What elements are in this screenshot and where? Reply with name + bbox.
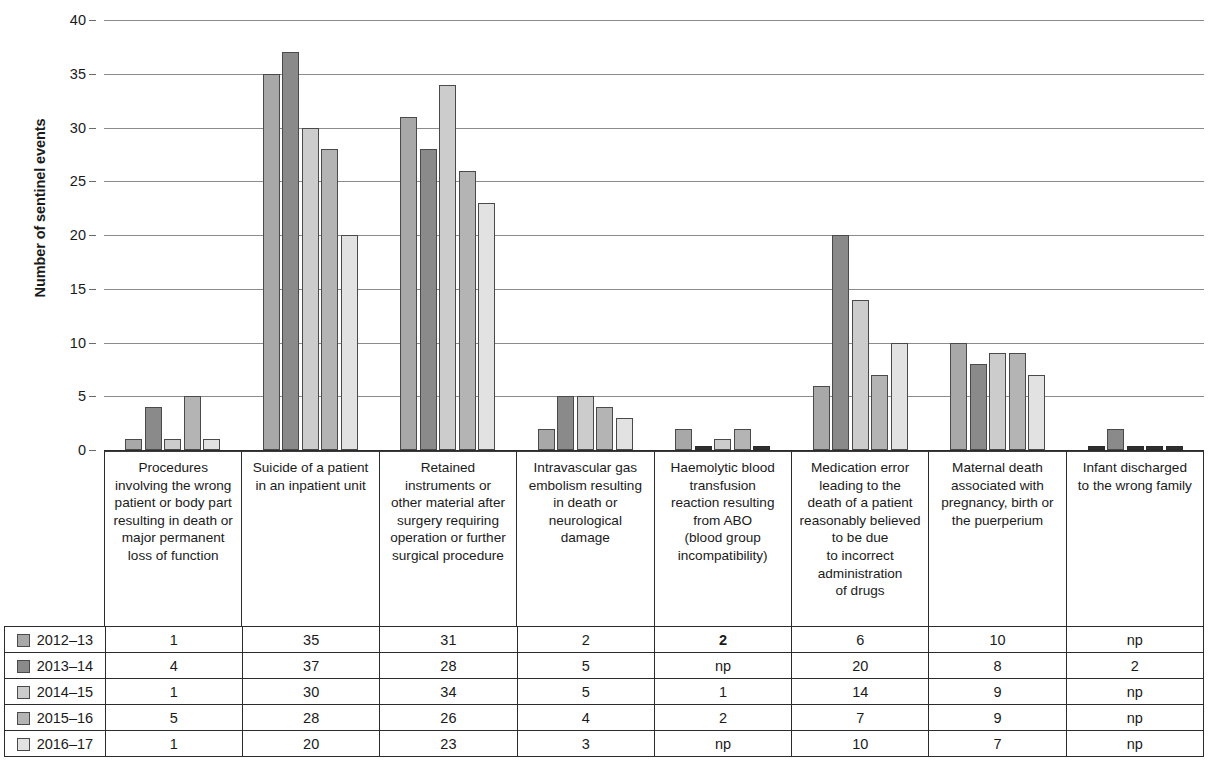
table-cell: 4 xyxy=(105,653,242,679)
legend-item[interactable]: 2015–16 xyxy=(5,705,106,731)
legend-swatch-icon xyxy=(17,660,30,673)
table-cell: 23 xyxy=(380,731,517,757)
y-axis-tick-mark xyxy=(89,74,96,75)
legend-label: 2016–17 xyxy=(37,736,93,752)
bar xyxy=(321,149,338,450)
category-label: Haemolytic blood transfusion reaction re… xyxy=(668,459,778,626)
bar-group xyxy=(517,20,655,450)
bar xyxy=(420,149,437,450)
bar xyxy=(852,300,869,451)
table-cell: 1 xyxy=(105,627,242,653)
bar xyxy=(577,396,594,450)
data-table-body: 2012–131353122610np2013–14437285np208220… xyxy=(5,627,1204,757)
bar xyxy=(813,386,830,451)
y-axis-tick-label: 15 xyxy=(70,281,86,297)
bar xyxy=(1009,353,1026,450)
bar xyxy=(557,396,574,450)
table-cell: 31 xyxy=(380,627,517,653)
bar xyxy=(439,85,456,451)
category-label: Medication error leading to the death of… xyxy=(797,459,924,626)
y-axis-tick-label: 25 xyxy=(70,173,86,189)
table-cell: 20 xyxy=(792,653,929,679)
category-cell: Maternal death associated with pregnancy… xyxy=(929,451,1066,626)
table-cell: 20 xyxy=(242,731,379,757)
y-axis-tick-mark xyxy=(89,289,96,290)
bar-group xyxy=(929,20,1067,450)
table-cell: np xyxy=(654,731,791,757)
category-cell: Haemolytic blood transfusion reaction re… xyxy=(655,451,792,626)
category-cell: Procedures involving the wrong patient o… xyxy=(105,451,242,626)
bar xyxy=(184,396,201,450)
bar xyxy=(616,418,633,450)
bar xyxy=(596,407,613,450)
category-cell: Suicide of a patient in an inpatient uni… xyxy=(242,451,379,626)
table-cell: np xyxy=(654,653,791,679)
table-row: 2014–151303451149np xyxy=(5,679,1204,705)
legend-item[interactable]: 2014–15 xyxy=(5,679,106,705)
table-cell: 6 xyxy=(792,627,929,653)
table-cell: 2 xyxy=(654,705,791,731)
table-cell: 3 xyxy=(517,731,654,757)
bar xyxy=(538,429,555,451)
category-label: Suicide of a patient in an inpatient uni… xyxy=(250,459,372,626)
bar xyxy=(459,171,476,451)
legend-item[interactable]: 2013–14 xyxy=(5,653,106,679)
legend-label: 2012–13 xyxy=(37,632,93,648)
table-row: 2012–131353122610np xyxy=(5,627,1204,653)
y-axis-tick-label: 40 xyxy=(70,12,86,28)
legend-label: 2014–15 xyxy=(37,684,93,700)
bar xyxy=(832,235,849,450)
legend-item[interactable]: 2012–13 xyxy=(5,627,106,653)
table-cell: 35 xyxy=(242,627,379,653)
bar xyxy=(714,439,731,450)
legend-item[interactable]: 2016–17 xyxy=(5,731,106,757)
y-axis-tick-label: 30 xyxy=(70,120,86,136)
table-cell: 9 xyxy=(929,705,1066,731)
bar-group xyxy=(104,20,242,450)
category-label: Maternal death associated with pregnancy… xyxy=(938,459,1056,626)
category-label: Intravascular gas embolism resulting in … xyxy=(526,459,645,626)
legend-swatch-icon xyxy=(17,712,30,725)
bar xyxy=(282,52,299,450)
y-axis-tick-label: 0 xyxy=(78,442,86,458)
table-cell: 28 xyxy=(380,653,517,679)
bar xyxy=(891,343,908,451)
table-cell: 1 xyxy=(105,731,242,757)
table-row: 2015–16528264279np xyxy=(5,705,1204,731)
legend-label: 2015–16 xyxy=(37,710,93,726)
bar xyxy=(203,439,220,450)
y-axis-tick-label: 10 xyxy=(70,335,86,351)
table-cell: 7 xyxy=(929,731,1066,757)
table-cell: 30 xyxy=(242,679,379,705)
table-cell: 4 xyxy=(517,705,654,731)
y-axis-tick-mark xyxy=(89,235,96,236)
table-cell: 5 xyxy=(517,653,654,679)
chart-figure: Number of sentinel events 05101520253035… xyxy=(0,0,1211,769)
table-cell: 37 xyxy=(242,653,379,679)
y-axis-tick-mark xyxy=(89,128,96,129)
table-cell: 8 xyxy=(929,653,1066,679)
table-cell: 26 xyxy=(380,705,517,731)
data-table: 2012–131353122610np2013–14437285np208220… xyxy=(4,626,1204,757)
table-cell: 5 xyxy=(105,705,242,731)
table-cell: np xyxy=(1066,705,1203,731)
plot-area xyxy=(104,20,1204,450)
table-cell: 5 xyxy=(517,679,654,705)
table-row: 2016–17120233np107np xyxy=(5,731,1204,757)
y-axis-tick-mark xyxy=(89,450,96,451)
table-cell: 2 xyxy=(517,627,654,653)
bar xyxy=(1028,375,1045,450)
y-axis-tick-mark xyxy=(89,396,96,397)
bar-group xyxy=(654,20,792,450)
legend-swatch-icon xyxy=(17,738,30,751)
bar xyxy=(145,407,162,450)
y-axis-tick-mark xyxy=(89,343,96,344)
bar xyxy=(164,439,181,450)
bar-group xyxy=(242,20,380,450)
table-cell: 9 xyxy=(929,679,1066,705)
legend-label: 2013–14 xyxy=(37,658,93,674)
bar xyxy=(341,235,358,450)
table-cell: 1 xyxy=(105,679,242,705)
table-row: 2013–14437285np2082 xyxy=(5,653,1204,679)
table-cell: np xyxy=(1066,731,1203,757)
